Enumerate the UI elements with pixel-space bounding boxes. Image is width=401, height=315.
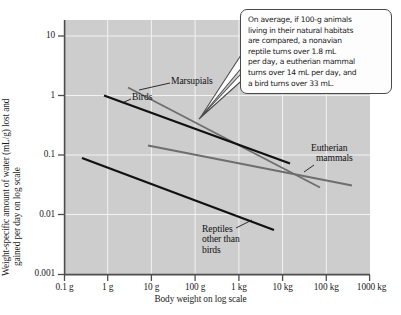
series-label-eutherian-line-2: mammals xyxy=(311,153,353,163)
x-tick-label-10kg: 10 kg xyxy=(261,282,305,292)
y-axis-title: Weight-specific amount of water (mL/g) l… xyxy=(0,20,30,276)
x-tick-label-0.1g: 0.1 g xyxy=(43,282,87,292)
x-axis-title: Body weight on log scale xyxy=(0,294,401,304)
x-tick-label-1kg: 1 kg xyxy=(217,282,261,292)
series-label-birds: Birds xyxy=(132,92,152,102)
y-tick-label-0.001: 0.001 xyxy=(8,268,55,278)
series-label-reptiles-line-1: Reptiles xyxy=(202,223,233,234)
callout-line-7: a bird turns over 33 mL. xyxy=(248,79,334,88)
series-label-eutherian-line-1: Eutherian xyxy=(311,142,347,153)
y-tick-label-1: 1 xyxy=(8,90,55,100)
series-label-reptiles-line-3: birds xyxy=(202,244,221,255)
y-tick-label-10: 10 xyxy=(8,30,55,40)
callout-line-4: reptile turns over 1.8 mL xyxy=(248,47,336,56)
y-tick-label-0.01: 0.01 xyxy=(8,209,55,219)
callout-line-3: are compared, a nonavian xyxy=(248,36,342,45)
x-tick-label-100g: 100 g xyxy=(173,282,217,292)
series-label-marsupials: Marsupials xyxy=(171,76,213,86)
y-axis-ticks xyxy=(58,36,64,275)
x-tick-label-1g: 1 g xyxy=(86,282,130,292)
y-axis-title-line-1: Weight-specific amount of water (mL/g) l… xyxy=(1,99,11,276)
series-label-reptiles-line-2: other than xyxy=(202,233,240,244)
series-label-eutherian-mammals: Eutherian mammals xyxy=(311,143,353,164)
callout-line-2: living in their natural habitats xyxy=(248,26,353,35)
annotation-callout-box: On average, if 100-g animals living in t… xyxy=(240,9,392,94)
callout-line-6: turns over 14 mL per day, and xyxy=(248,68,356,77)
callout-line-1: On average, if 100-g animals xyxy=(248,15,352,24)
figure-container: Weight-specific amount of water (mL/g) l… xyxy=(0,0,401,315)
x-tick-label-10g: 10 g xyxy=(129,282,173,292)
x-axis-ticks xyxy=(65,275,370,281)
series-label-reptiles: Reptiles other than birds xyxy=(202,224,240,255)
x-tick-label-1000kg: 1000 kg xyxy=(348,282,396,292)
x-tick-label-100kg: 100 kg xyxy=(304,282,348,292)
callout-line-5: per day, a eutherian mammal xyxy=(248,57,355,66)
y-tick-label-0.1: 0.1 xyxy=(8,149,55,159)
